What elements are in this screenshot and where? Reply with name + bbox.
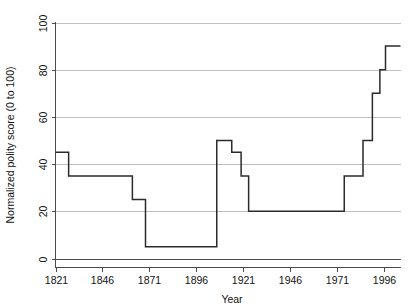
y-tick-label-20: 20 <box>37 206 49 218</box>
y-tick-label-80: 80 <box>37 65 49 77</box>
data-line-series-0 <box>56 46 401 247</box>
x-tick-label-1896: 1896 <box>185 274 209 286</box>
tick-marks-group <box>52 24 385 272</box>
polity-score-line-chart: 18211846187118961921194619711996 0204060… <box>0 0 410 307</box>
y-tick-labels-group: 020406080100 <box>37 15 49 263</box>
x-axis-title: Year <box>221 293 243 305</box>
y-tick-label-0: 0 <box>37 256 49 262</box>
x-tick-label-1846: 1846 <box>91 274 115 286</box>
x-tick-label-1871: 1871 <box>138 274 162 286</box>
x-tick-label-1946: 1946 <box>279 274 303 286</box>
axes-group <box>56 22 401 268</box>
y-tick-label-40: 40 <box>37 159 49 171</box>
x-tick-label-1971: 1971 <box>326 274 350 286</box>
gridlines-group <box>56 24 401 260</box>
x-tick-label-1921: 1921 <box>232 274 256 286</box>
data-series-group <box>56 46 401 247</box>
y-tick-label-100: 100 <box>37 15 49 33</box>
y-tick-label-60: 60 <box>37 112 49 124</box>
x-tick-label-1821: 1821 <box>45 274 69 286</box>
x-tick-label-1996: 1996 <box>373 274 397 286</box>
chart-figure: 18211846187118961921194619711996 0204060… <box>0 0 410 307</box>
y-axis-title: Normalized polity score (0 to 100) <box>4 67 16 224</box>
x-tick-labels-group: 18211846187118961921194619711996 <box>45 274 397 286</box>
